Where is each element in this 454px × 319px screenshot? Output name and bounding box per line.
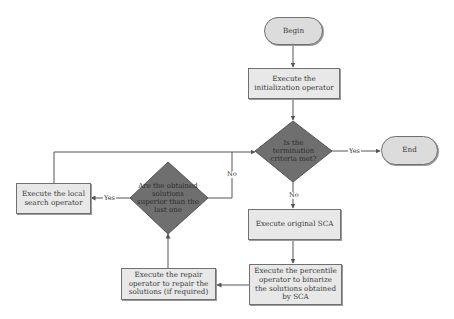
termination-no-label: No bbox=[288, 192, 300, 199]
original-sca-label: Execute original SCA bbox=[256, 220, 334, 229]
percentile-operator-node: Execute the percentile operator to binar… bbox=[249, 264, 342, 305]
begin-label: Begin bbox=[283, 27, 304, 36]
termination-yes-label: Yes bbox=[348, 148, 361, 155]
end-label: End bbox=[402, 146, 416, 155]
percentile-operator-label: Execute the percentile operator to binar… bbox=[253, 267, 338, 302]
local-search-label: Execute the local search operator bbox=[20, 190, 87, 207]
superior-no-label: No bbox=[226, 171, 238, 178]
repair-operator-label: Execute the repair operator to repair th… bbox=[126, 271, 211, 297]
begin-node: Begin bbox=[264, 17, 323, 45]
end-node: End bbox=[381, 136, 438, 165]
termination-decision-text: Is the termination criteria met? bbox=[266, 134, 321, 168]
init-operator-label: Execute the initialization operator bbox=[253, 75, 335, 92]
local-search-node: Execute the local search operator bbox=[16, 183, 91, 214]
init-operator-node: Execute the initialization operator bbox=[248, 68, 340, 99]
repair-operator-node: Execute the repair operator to repair th… bbox=[121, 268, 216, 300]
superior-decision-text: Are the obtained solutions superior than… bbox=[137, 172, 199, 224]
original-sca-node: Execute original SCA bbox=[248, 209, 341, 240]
superior-yes-label: Yes bbox=[103, 195, 116, 202]
